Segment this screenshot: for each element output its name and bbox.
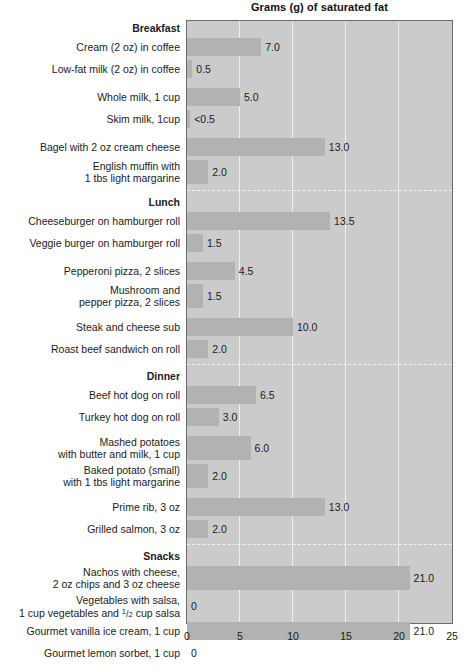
bar-value-label: 2.0 [212,166,227,178]
bar [187,60,192,78]
bar-value-label: 7.0 [265,41,280,53]
row-label-line: Dinner [0,370,180,382]
bar-row: 3.0 [0,408,476,426]
bar-value-label: 13.0 [329,141,349,153]
bar-row: 5.0 [0,88,476,106]
bar [187,262,235,280]
bar-value-label: 5.0 [244,91,259,103]
bar-row: 0.5 [0,60,476,78]
bar-value-label: 4.5 [239,265,254,277]
bar-value-label: 1.5 [207,290,222,302]
section-divider [187,190,452,191]
bar [187,464,208,488]
row-label-line: Snacks [0,550,180,562]
bar-value-label: 21.0 [414,572,434,584]
bar [187,110,190,128]
x-tick-label: 20 [384,630,414,642]
bar-value-label: 3.0 [223,411,238,423]
bar [187,138,325,156]
row-label-line: Breakfast [0,22,180,34]
bar-row: 2.0 [0,520,476,538]
bar-value-label: 2.0 [212,470,227,482]
bar-row: 1.5 [0,234,476,252]
bar [187,566,410,590]
section-divider [187,544,452,545]
bar-row: 6.5 [0,386,476,404]
bar-row: 4.5 [0,262,476,280]
bar [187,436,251,460]
section-divider [187,364,452,365]
bar [187,234,203,252]
bar-row: 2.0 [0,340,476,358]
bar-value-label: 13.0 [329,501,349,513]
bar [187,386,256,404]
x-axis: 0510152025 [0,624,476,654]
chart-title: Grams (g) of saturated fat [186,1,453,13]
bar-row: 10.0 [0,318,476,336]
bar-value-label: 0.5 [196,63,211,75]
bar-row: 1.5 [0,284,476,308]
bar-row: 6.0 [0,436,476,460]
bar [187,88,240,106]
bar [187,520,208,538]
bar [187,318,293,336]
bar-value-label: 2.0 [212,343,227,355]
x-tick-label: 15 [331,630,361,642]
x-tick-label: 5 [225,630,255,642]
bar-value-label: 1.5 [207,237,222,249]
bar [187,408,219,426]
saturated-fat-bar-chart: Grams (g) of saturated fat BreakfastCrea… [0,0,476,667]
bar-row: 13.5 [0,212,476,230]
section-heading: Lunch [0,196,180,208]
section-heading: Snacks [0,550,180,562]
bar-value-label: <0.5 [194,113,215,125]
bar-row: 13.0 [0,138,476,156]
bar [187,284,203,308]
row-label-line: Lunch [0,196,180,208]
bar-value-label: 2.0 [212,523,227,535]
section-heading: Dinner [0,370,180,382]
bar-value-label: 13.5 [334,215,354,227]
bar [187,38,261,56]
bar-row: 0 [0,594,476,618]
bar-value-label: 10.0 [297,321,317,333]
bar [187,160,208,184]
section-heading: Breakfast [0,22,180,34]
bar-row: 7.0 [0,38,476,56]
x-tick-label: 10 [278,630,308,642]
x-tick-label: 25 [437,630,467,642]
bar [187,498,325,516]
bar-row: 21.0 [0,566,476,590]
bar-row: <0.5 [0,110,476,128]
bar-value-label: 6.5 [260,389,275,401]
bar-value-label: 6.0 [255,442,270,454]
bar-row: 2.0 [0,160,476,184]
bar-row: 2.0 [0,464,476,488]
bar-row: 13.0 [0,498,476,516]
bar [187,340,208,358]
bar-value-label: 0 [191,600,197,612]
x-tick-label: 0 [172,630,202,642]
bar [187,212,330,230]
